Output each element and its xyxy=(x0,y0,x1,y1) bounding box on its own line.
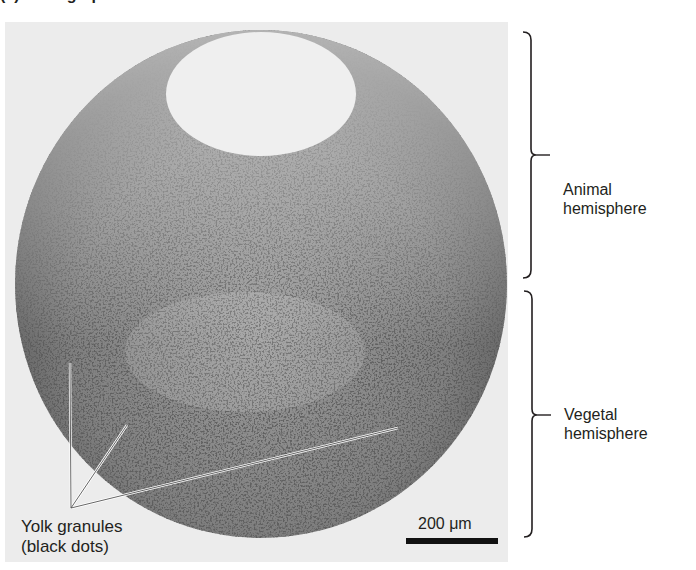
micrograph-image xyxy=(5,22,508,562)
vegetal-label-line1: Vegetal xyxy=(564,405,648,424)
yolk-label-line2: (black dots) xyxy=(21,537,122,557)
blastocoel-cavity xyxy=(166,32,356,156)
scale-bar xyxy=(406,538,498,544)
scale-bar-label: 200 μm xyxy=(418,515,472,533)
yolk-granules-label: Yolk granules (black dots) xyxy=(21,517,122,557)
egg-micrograph xyxy=(5,22,508,562)
vegetal-hemisphere-bracket xyxy=(524,291,537,537)
vegetal-hemisphere-label: Vegetal hemisphere xyxy=(564,405,648,443)
yolk-label-line1: Yolk granules xyxy=(21,517,122,537)
animal-hemisphere-bracket xyxy=(523,32,536,278)
vegetal-label-line2: hemisphere xyxy=(564,424,648,443)
animal-label-line2: hemisphere xyxy=(563,199,647,218)
figure-title-fragment: (a) Micrograph xyxy=(0,0,111,4)
animal-label-line1: Animal xyxy=(563,180,647,199)
animal-hemisphere-label: Animal hemisphere xyxy=(563,180,647,218)
